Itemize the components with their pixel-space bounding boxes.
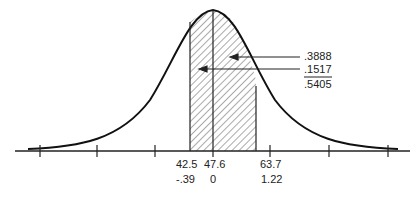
area-right-label: .3888 xyxy=(304,50,332,62)
area-left-label: .1517 xyxy=(304,63,332,75)
mean-x-label: 47.6 xyxy=(204,158,225,170)
left-bound-x-label: 42.5 xyxy=(176,158,197,170)
right-bound-z-label: 1.22 xyxy=(261,173,282,185)
left-bound-z-label: -.39 xyxy=(176,173,195,185)
area-total-label: .5405 xyxy=(304,78,332,90)
shaded-area xyxy=(190,0,256,151)
mean-z-label: 0 xyxy=(210,173,216,185)
right-bound-x-label: 63.7 xyxy=(260,158,281,170)
